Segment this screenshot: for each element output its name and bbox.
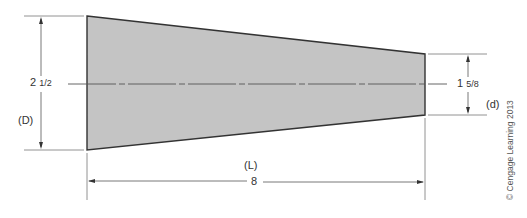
symbol-d-label: (d) xyxy=(486,98,499,110)
copyright-text: © Cengage Learning 2013 xyxy=(505,100,515,200)
dimension-value-fraction: 5/8 xyxy=(466,79,479,89)
arrowhead-right-icon xyxy=(417,180,424,184)
taper-body xyxy=(87,16,425,150)
dimension-label-small-diameter: 1 5/8 xyxy=(457,77,479,89)
arrowhead-up-icon xyxy=(466,55,470,62)
taper-drawing xyxy=(0,0,527,218)
arrowhead-down-icon xyxy=(39,142,43,149)
dimension-value-whole: 1 xyxy=(457,77,463,89)
copyright-notice: © Cengage Learning 2013 xyxy=(505,120,519,200)
arrowhead-up-icon xyxy=(39,17,43,24)
dimension-value-fraction: 1/2 xyxy=(39,78,52,88)
arrowhead-down-icon xyxy=(466,107,470,114)
arrowhead-left-icon xyxy=(88,179,95,183)
symbol-L-label: (L) xyxy=(244,159,257,171)
dimension-label-large-diameter: 2 1/2 xyxy=(30,76,52,88)
dimension-value-whole: 2 xyxy=(30,76,36,88)
dimension-label-length: 8 xyxy=(251,175,257,187)
symbol-D-label: (D) xyxy=(18,114,33,126)
